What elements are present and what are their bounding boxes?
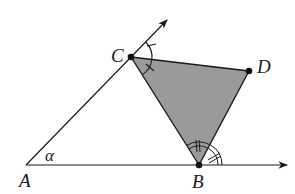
point-b [196, 162, 203, 169]
label-a: A [17, 170, 31, 191]
label-c: C [111, 45, 124, 66]
point-d [246, 68, 253, 75]
geometry-figure: A B C D α [0, 0, 295, 194]
label-d: D [256, 56, 271, 77]
point-c [128, 54, 135, 61]
label-alpha: α [45, 146, 55, 165]
label-b: B [192, 171, 204, 192]
